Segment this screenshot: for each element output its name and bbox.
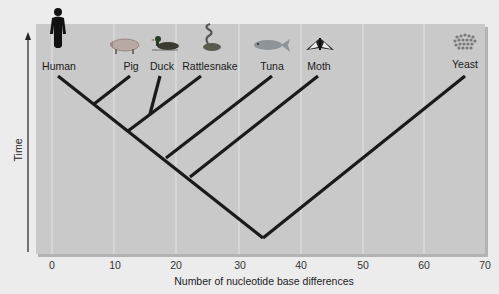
taxon-label-human: Human bbox=[42, 60, 76, 72]
x-tick-label: 20 bbox=[170, 259, 182, 271]
plot-area bbox=[36, 24, 485, 254]
y-axis-title: Time bbox=[12, 138, 24, 161]
taxon-label-moth: Moth bbox=[307, 60, 331, 72]
taxon-label-rattlesnake: Rattlesnake bbox=[182, 60, 238, 72]
x-tick-label: 70 bbox=[479, 259, 491, 271]
x-tick-label: 60 bbox=[418, 259, 430, 271]
time-axis: Time bbox=[12, 32, 31, 252]
x-tick-label: 50 bbox=[357, 259, 369, 271]
phylogenetic-tree-figure: Time bbox=[0, 0, 499, 294]
taxon-label-duck: Duck bbox=[150, 60, 175, 72]
taxon-label-yeast: Yeast bbox=[452, 58, 478, 70]
x-tick-label: 0 bbox=[49, 259, 55, 271]
arrow-up-icon bbox=[25, 32, 31, 40]
taxon-label-tuna: Tuna bbox=[260, 60, 284, 72]
x-axis-ticks: 0 10 20 30 40 50 60 70 bbox=[49, 259, 491, 271]
x-tick-label: 40 bbox=[295, 259, 307, 271]
x-axis-title: Number of nucleotide base differences bbox=[174, 275, 354, 287]
taxon-label-pig: Pig bbox=[123, 60, 138, 72]
x-tick-label: 10 bbox=[109, 259, 121, 271]
x-tick-label: 30 bbox=[234, 259, 246, 271]
